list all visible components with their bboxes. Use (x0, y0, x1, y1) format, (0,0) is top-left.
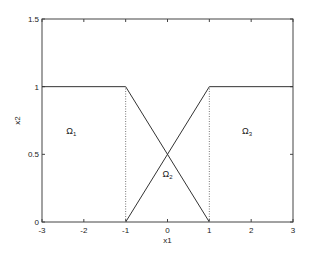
x-tick-label: 2 (249, 226, 254, 235)
y-tick-label: 0.5 (28, 150, 40, 159)
region-label: Ω2 (162, 169, 173, 180)
x-tick-label: -1 (122, 226, 130, 235)
y-tick-label: 1 (35, 83, 40, 92)
chart: -3-2-1012300.511.5Ω1Ω2Ω3x1x2 (0, 0, 309, 253)
y-tick-label: 0 (35, 218, 40, 227)
x-tick-label: -3 (38, 226, 46, 235)
y-tick-label: 1.5 (28, 15, 40, 24)
x-tick-label: 0 (165, 226, 170, 235)
x-tick-label: 1 (207, 226, 212, 235)
region-label: Ω1 (66, 126, 77, 137)
axes-box (42, 19, 293, 222)
x-axis-label: x1 (163, 236, 172, 245)
x-tick-label: 3 (291, 226, 296, 235)
region-label: Ω3 (242, 126, 253, 137)
x-tick-label: -2 (80, 226, 88, 235)
y-axis-label: x2 (13, 116, 22, 125)
